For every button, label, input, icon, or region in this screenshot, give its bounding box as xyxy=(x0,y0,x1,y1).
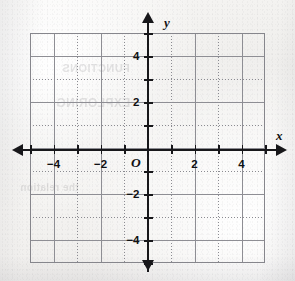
y-axis-tick xyxy=(144,125,153,127)
arrow-right-icon xyxy=(276,144,287,156)
x-axis-tick xyxy=(124,145,126,154)
arrow-up-icon xyxy=(142,12,154,23)
x-axis-tick xyxy=(218,145,220,154)
y-axis-tick xyxy=(144,240,153,242)
y-axis-tick xyxy=(144,194,153,196)
origin-label: O xyxy=(131,155,141,171)
y-axis-line xyxy=(147,20,149,272)
y-axis-tick-label: −2 xyxy=(112,188,140,200)
y-axis-tick-label: −4 xyxy=(112,234,140,246)
y-axis-tick-label: 4 xyxy=(112,50,140,62)
y-axis-tick xyxy=(144,33,153,35)
x-axis-tick-label: −4 xyxy=(47,158,60,170)
y-axis-tick xyxy=(144,171,153,173)
y-axis-tick xyxy=(144,263,153,265)
x-axis-tick-label: 2 xyxy=(191,158,197,170)
x-axis-tick-label: 4 xyxy=(238,158,244,170)
x-axis-tick xyxy=(242,145,244,154)
x-axis-tick xyxy=(195,145,197,154)
x-axis-tick-label: −2 xyxy=(94,158,107,170)
y-axis-tick xyxy=(144,102,153,104)
x-axis-label: x xyxy=(276,128,283,144)
x-axis-tick xyxy=(171,145,173,154)
x-axis-tick xyxy=(265,145,267,154)
x-axis-tick xyxy=(30,145,32,154)
x-axis-tick xyxy=(101,145,103,154)
y-axis-tick xyxy=(144,79,153,81)
y-axis-label: y xyxy=(164,15,170,31)
x-axis-tick xyxy=(77,145,79,154)
coordinate-plane-figure: FUNCTIONS EXPLORING the relation y x −4−… xyxy=(0,0,295,281)
arrow-down-icon xyxy=(142,260,154,271)
x-axis-tick xyxy=(54,145,56,154)
y-axis-tick xyxy=(144,217,153,219)
arrow-left-icon xyxy=(12,144,23,156)
y-axis-tick-label: 2 xyxy=(112,96,140,108)
y-axis-tick xyxy=(144,56,153,58)
